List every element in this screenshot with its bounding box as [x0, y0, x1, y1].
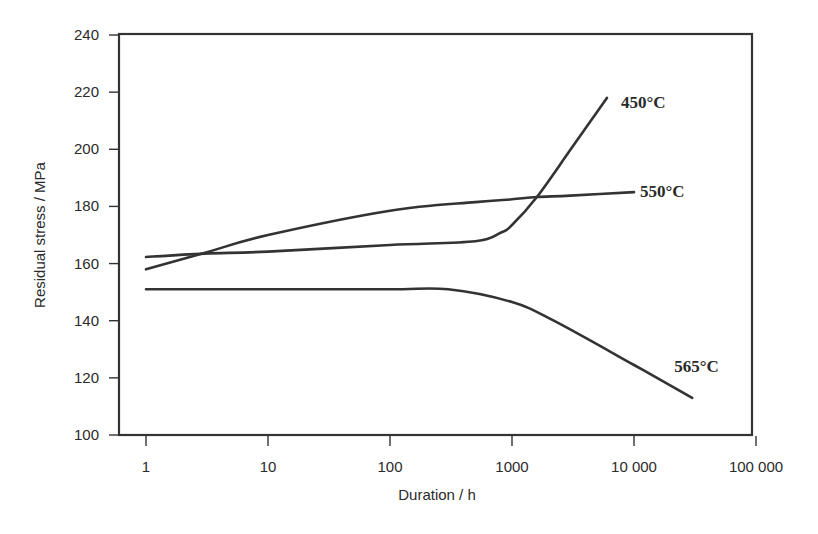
x-tick-label: 100	[377, 458, 402, 475]
y-tick-label: 220	[74, 83, 99, 100]
series-curves	[146, 98, 692, 398]
y-tick-label: 140	[74, 312, 99, 329]
y-tick-label: 180	[74, 197, 99, 214]
x-axis-ticks: 110100100010 000100 000	[142, 436, 783, 475]
y-axis-title: Residual stress / MPa	[31, 161, 48, 308]
y-axis-ticks: 100120140160180200220240	[74, 26, 119, 443]
series-label-550c: 550°C	[640, 182, 685, 201]
x-tick-label: 1	[142, 458, 150, 475]
x-tick-label: 10 000	[611, 458, 657, 475]
y-tick-label: 100	[74, 426, 99, 443]
x-tick-label: 10	[260, 458, 277, 475]
y-tick-label: 120	[74, 369, 99, 386]
y-tick-label: 240	[74, 26, 99, 43]
series-curve-550c	[146, 192, 634, 269]
x-tick-label: 1000	[495, 458, 528, 475]
chart: 110100100010 000100 000 1001201401601802…	[0, 0, 818, 534]
x-axis-title: Duration / h	[398, 486, 476, 503]
series-curve-565c	[146, 288, 692, 398]
y-tick-label: 160	[74, 255, 99, 272]
series-labels: 450°C550°C565°C	[621, 93, 719, 376]
y-tick-label: 200	[74, 140, 99, 157]
series-label-565c: 565°C	[674, 357, 719, 376]
series-label-450c: 450°C	[621, 93, 666, 112]
series-curve-450c	[146, 98, 607, 257]
x-tick-label: 100 000	[729, 458, 783, 475]
